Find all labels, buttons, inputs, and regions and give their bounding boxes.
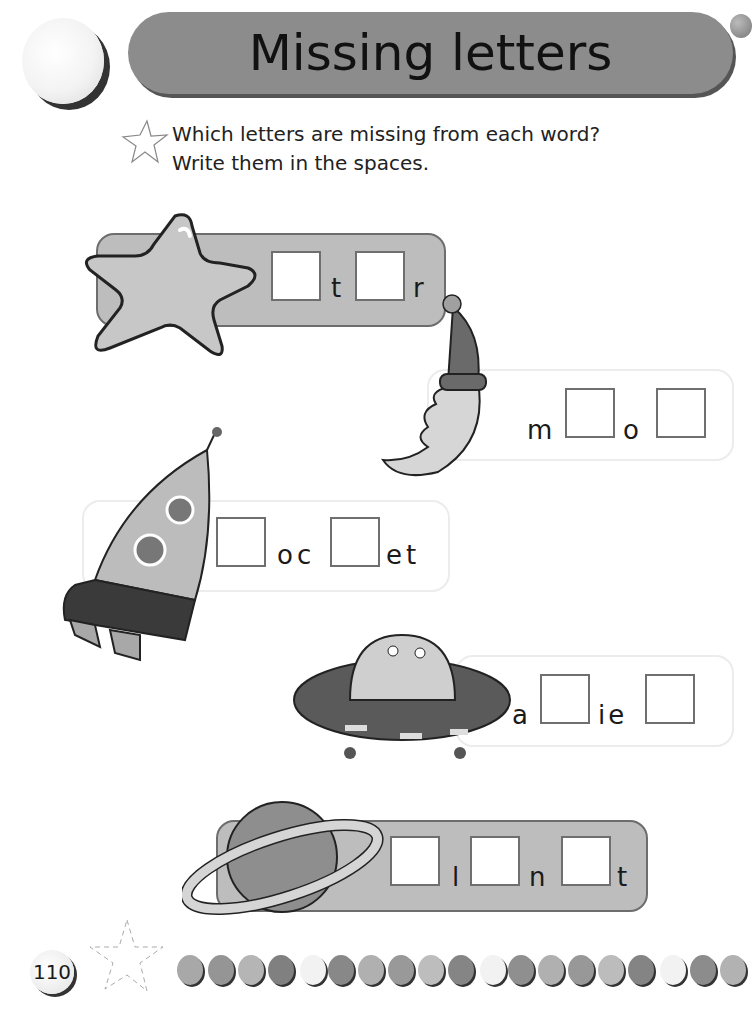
bead	[328, 955, 354, 985]
bead	[448, 955, 474, 985]
alien-spaceship-picture-icon	[290, 625, 515, 760]
instruction-line-2: Write them in the spaces.	[172, 149, 600, 178]
planet-dot-decoration	[730, 14, 752, 38]
bead	[177, 955, 203, 985]
bead	[720, 955, 746, 985]
instruction-line-1: Which letters are missing from each word…	[172, 120, 600, 149]
answer-box[interactable]	[390, 836, 440, 886]
letter: l	[452, 862, 459, 892]
bead	[628, 955, 654, 985]
bead	[418, 955, 444, 985]
rocket-picture-icon	[55, 425, 225, 670]
letter: a	[512, 700, 528, 730]
bead	[660, 955, 686, 985]
bead	[568, 955, 594, 985]
answer-box[interactable]	[565, 388, 615, 438]
instructions: Which letters are missing from each word…	[172, 120, 600, 178]
letter: o	[623, 415, 639, 445]
bead	[538, 955, 564, 985]
answer-box[interactable]	[540, 674, 590, 724]
star-outline-icon	[120, 118, 170, 166]
letter: ie	[598, 700, 627, 730]
page-number-text: 110	[33, 960, 71, 984]
answer-box[interactable]	[645, 674, 695, 724]
letter: t	[617, 862, 627, 892]
letter: oc	[277, 540, 315, 570]
answer-box[interactable]	[656, 388, 706, 438]
letter: et	[386, 540, 420, 570]
bead	[598, 955, 624, 985]
answer-box[interactable]	[561, 836, 611, 886]
bead	[300, 955, 326, 985]
moon-decoration	[22, 18, 104, 104]
bead	[508, 955, 534, 985]
moon-nightcap-picture-icon	[378, 292, 523, 482]
letter: m	[527, 415, 552, 445]
bead	[690, 955, 716, 985]
bead	[238, 955, 264, 985]
page-title: Missing letters	[128, 12, 733, 94]
bead	[388, 955, 414, 985]
answer-box[interactable]	[216, 517, 266, 567]
answer-box[interactable]	[470, 836, 520, 886]
bead	[358, 955, 384, 985]
answer-box[interactable]	[271, 251, 321, 301]
planet-picture-icon	[182, 795, 387, 920]
star-picture-icon	[80, 208, 260, 358]
letter: t	[331, 273, 341, 303]
answer-box[interactable]	[330, 517, 380, 567]
letter: n	[529, 862, 545, 892]
bead	[480, 955, 506, 985]
page-number: 110	[30, 950, 74, 994]
bead	[268, 955, 294, 985]
bead	[208, 955, 234, 985]
dashed-star-icon	[85, 917, 165, 997]
